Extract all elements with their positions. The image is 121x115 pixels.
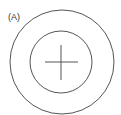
- crosshair-icon: [45, 45, 78, 80]
- panel-label: (A): [8, 12, 20, 22]
- diagram-canvas: (A): [0, 0, 121, 115]
